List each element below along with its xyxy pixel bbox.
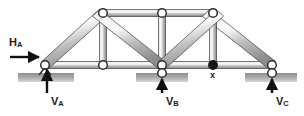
label-vc: VC (276, 96, 289, 108)
joint-bottom-a (41, 61, 50, 70)
joint-bottom-d (99, 61, 108, 70)
label-ha: HA (9, 37, 22, 49)
label-vb-sub: B (173, 99, 178, 108)
joint-top-f (158, 9, 167, 18)
label-load-point-x: x (210, 71, 215, 80)
roller-support-b (158, 69, 167, 78)
label-va: VA (51, 96, 64, 108)
truss-diagram-figure: HA VA VB VC x (0, 0, 304, 116)
joint-top-e (99, 9, 108, 18)
joint-top-g (209, 9, 218, 18)
roller-support-c (268, 69, 277, 78)
label-ha-main: H (9, 36, 17, 48)
truss-svg-canvas (0, 0, 304, 116)
label-vb: VB (166, 96, 179, 108)
label-ha-sub: A (17, 40, 22, 49)
label-vc-sub: C (283, 99, 288, 108)
truss-members (42, 9, 276, 68)
joint-load-point-x (209, 61, 218, 70)
label-va-sub: A (58, 99, 63, 108)
